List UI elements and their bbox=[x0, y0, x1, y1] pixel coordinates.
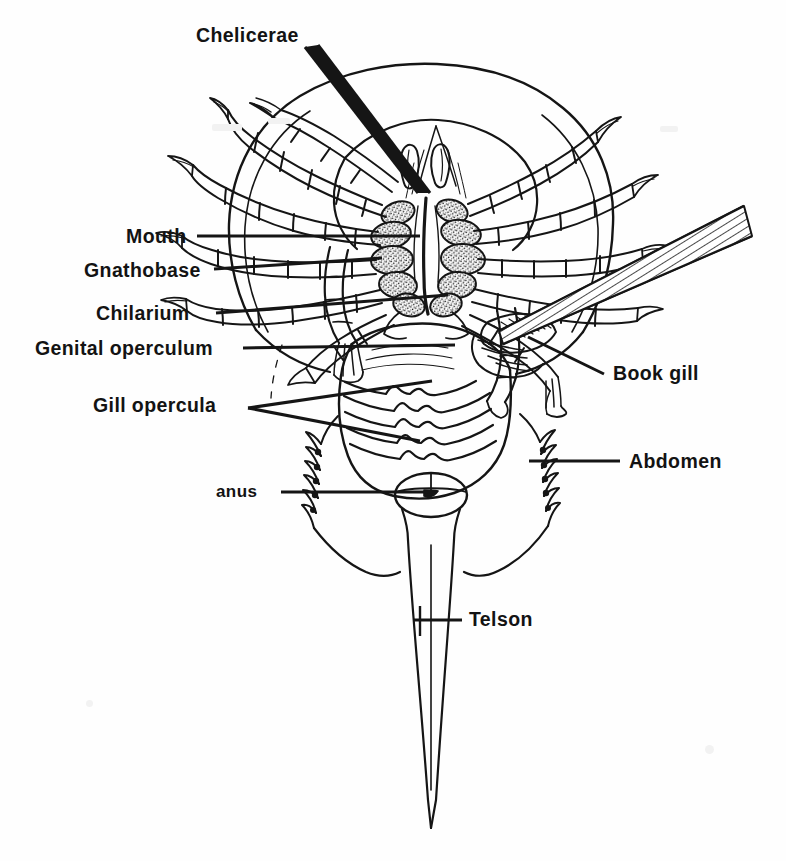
leader-genital-operculum bbox=[243, 345, 455, 348]
figure-page: Chelicerae Mouth Gnathobase Chilarium Ge… bbox=[0, 0, 786, 861]
label-gill-opercula: Gill opercula bbox=[93, 396, 216, 416]
leader-gill-opercula-b bbox=[248, 408, 420, 441]
label-gnathobase: Gnathobase bbox=[84, 261, 201, 281]
label-mouth: Mouth bbox=[126, 227, 186, 247]
genital-operculum bbox=[341, 324, 510, 396]
horseshoe-crab-diagram bbox=[0, 0, 786, 861]
label-telson: Telson bbox=[469, 610, 533, 630]
leader-gnathobase bbox=[214, 258, 382, 269]
abdomen-right-spines bbox=[520, 414, 560, 526]
anus-and-telson-base bbox=[395, 473, 467, 540]
leader-lines bbox=[197, 45, 752, 636]
label-chilarium: Chilarium bbox=[96, 304, 190, 324]
label-book-gill: Book gill bbox=[613, 364, 699, 384]
label-anus: anus bbox=[216, 483, 257, 500]
label-abdomen: Abdomen bbox=[629, 452, 722, 472]
label-chelicerae: Chelicerae bbox=[196, 26, 299, 46]
label-genital-operculum: Genital operculum bbox=[35, 339, 213, 359]
abdomen-left-spines bbox=[302, 416, 338, 528]
telson bbox=[408, 540, 454, 828]
